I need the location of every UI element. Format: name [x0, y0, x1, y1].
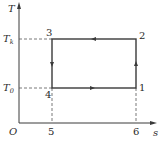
- x-axis-arrow-icon: [150, 121, 157, 125]
- t0-label: T0: [3, 82, 14, 95]
- x-axis-label: s: [153, 127, 158, 138]
- origin-label: O: [9, 126, 17, 137]
- cycle: [50, 37, 138, 90]
- point-4-label: 4: [45, 89, 51, 100]
- cycle-rectangle: [52, 39, 136, 88]
- point-1-label: 1: [139, 82, 145, 93]
- point-6-label: 6: [133, 126, 139, 137]
- point-5-label: 5: [48, 126, 54, 137]
- y-axis-arrow-icon: [17, 2, 21, 9]
- ts-diagram: T s O Tk T0 1 2 3 4 5 6: [0, 0, 163, 143]
- arrow-down-icon: [50, 62, 54, 67]
- point-2-label: 2: [139, 30, 145, 41]
- arrow-left-icon: [91, 37, 96, 41]
- y-axis-label: T: [8, 3, 16, 14]
- guide-lines: [19, 39, 136, 123]
- arrow-up-icon: [134, 61, 138, 66]
- tk-label: Tk: [3, 33, 14, 46]
- point-3-label: 3: [46, 27, 52, 38]
- arrow-right-icon: [90, 86, 95, 90]
